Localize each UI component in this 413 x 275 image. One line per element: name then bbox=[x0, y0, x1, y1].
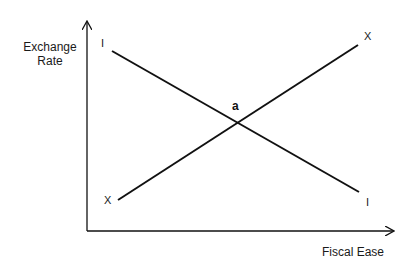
x-axis-label: Fiscal Ease bbox=[322, 245, 384, 259]
y-axis-label-line2: Rate bbox=[18, 54, 82, 68]
y-axis-label: Exchange Rate bbox=[18, 40, 82, 68]
curve-i-end-label: I bbox=[366, 196, 369, 208]
curve-x-line bbox=[118, 45, 358, 200]
curve-i-start-label: I bbox=[101, 37, 104, 49]
intersection-label: a bbox=[232, 99, 239, 113]
curve-x-end-label: X bbox=[364, 30, 371, 42]
y-axis-label-line1: Exchange bbox=[18, 40, 82, 54]
curve-i-line bbox=[112, 51, 359, 192]
curve-x-start-label: X bbox=[104, 194, 111, 206]
